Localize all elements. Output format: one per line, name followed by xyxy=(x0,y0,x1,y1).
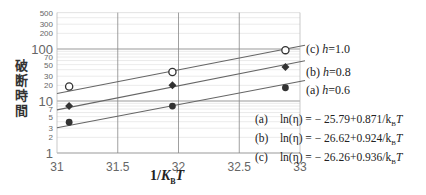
y-tick-label: 20 xyxy=(44,81,53,90)
equation-tail: T xyxy=(396,132,402,144)
data-point xyxy=(66,83,73,90)
y-tick-label: 10 xyxy=(39,94,53,109)
fit-line xyxy=(57,45,305,93)
data-point xyxy=(66,119,73,126)
y-axis-label: 破断時間 xyxy=(14,58,28,118)
series-label: (c) h=1.0 xyxy=(306,42,350,56)
equation: (b) ln(η) = − 26.62+0.924/kBT xyxy=(255,132,402,147)
y-tick-label: 200 xyxy=(40,29,54,38)
y-tick-label: 1 xyxy=(46,146,53,161)
x-axis-label: 1/KBT xyxy=(150,168,184,186)
y-tick-label: 30 xyxy=(44,72,53,81)
equation-text: ln(η) = − 25.79+0.871/k xyxy=(277,113,391,125)
equation-tail: T xyxy=(396,113,402,125)
data-point xyxy=(169,68,176,75)
data-point xyxy=(282,84,289,91)
series-label: (a) h=0.6 xyxy=(306,83,350,97)
x-tick-label: 32.5 xyxy=(228,160,252,174)
series-label: (b) h=0.8 xyxy=(306,65,351,79)
y-tick-label: 100 xyxy=(31,42,53,57)
equation-tail: T xyxy=(396,151,402,163)
data-point xyxy=(282,47,289,54)
equation-label: (a) xyxy=(255,113,277,125)
equation-label: (b) xyxy=(255,132,277,144)
equation-text: ln(η) = − 26.62+0.924/k xyxy=(277,132,391,144)
equation: (c) ln(η) = − 26.26+0.936/kBT xyxy=(255,151,402,166)
x-tick-label: 31.5 xyxy=(106,160,130,174)
y-tick-label: 2 xyxy=(49,133,54,142)
equation: (a) ln(η) = − 25.79+0.871/kBT xyxy=(255,113,402,128)
y-tick-label: 500 xyxy=(40,9,54,18)
data-point xyxy=(169,103,176,110)
y-tick-label: 300 xyxy=(40,20,54,29)
equation-label: (c) xyxy=(255,151,277,163)
equation-text: ln(η) = − 26.26+0.936/k xyxy=(277,151,391,163)
x-tick-label: 31 xyxy=(50,160,64,174)
y-tick-label: 3 xyxy=(49,124,54,133)
